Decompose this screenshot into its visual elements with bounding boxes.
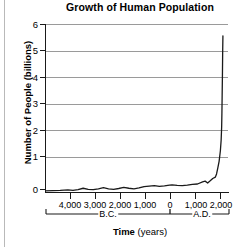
y-tick-label-group: 6 5 4 3 2 1 0 [22, 0, 38, 247]
page-edge-rule [4, 0, 5, 247]
x-tick-label: 1,000 [134, 200, 157, 210]
era-label-ad: A.D. [192, 209, 212, 219]
y-tick-label: 0 [24, 185, 38, 195]
x-axis-spine [45, 192, 229, 193]
x-axis-title: Time (years) [40, 226, 240, 237]
x-tick-mark [220, 193, 221, 199]
x-axis-title-main: Time [113, 226, 135, 237]
x-tick-label: 2,000 [210, 200, 233, 210]
y-tick-label: 3 [24, 99, 38, 109]
era-label-bc: B.C. [98, 209, 118, 219]
population-curve [45, 24, 228, 193]
x-tick-label: 0 [167, 200, 172, 210]
population-growth-chart: Growth of Human Population Number of Peo… [0, 0, 248, 247]
y-tick-label: 5 [24, 46, 38, 56]
x-tick-label: 4,000 [59, 200, 82, 210]
chart-title: Growth of Human Population [40, 1, 240, 13]
y-axis-spine [45, 24, 46, 193]
x-axis-title-unit: (years) [135, 226, 167, 237]
x-tick-mark [95, 193, 96, 199]
y-tick-label: 2 [24, 126, 38, 136]
x-tick-mark [145, 193, 146, 199]
plot-area [45, 24, 228, 192]
x-tick-mark [170, 193, 171, 199]
x-tick-mark [195, 193, 196, 199]
y-tick-label: 4 [24, 73, 38, 83]
x-tick-mark [120, 193, 121, 199]
x-tick-mark [70, 193, 71, 199]
y-tick-label: 6 [24, 20, 38, 30]
y-tick-label: 1 [24, 152, 38, 162]
